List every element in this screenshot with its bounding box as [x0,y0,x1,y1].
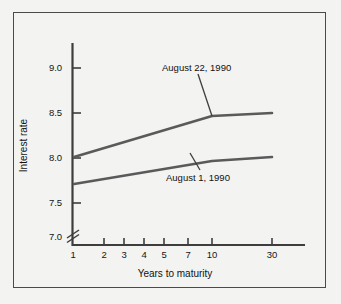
annotation-leader-august-1-1990 [190,153,200,170]
y-tick-label-8-5: 8.5 [32,107,62,118]
x-tick-label-1: 1 [64,249,82,260]
figure-canvas: 9.0 8.5 8.0 7.5 7.0 1 2 3 4 5 7 10 30 Ye… [0,0,341,304]
annotation-label-august-22-1990: August 22, 1990 [162,62,231,73]
series-line-august-22-1990 [74,113,272,157]
x-axis-title: Years to maturity [100,268,250,279]
y-tick-label-8-0: 8.0 [32,152,62,163]
x-tick-label-5: 5 [155,249,173,260]
y-tick-label-9-0: 9.0 [32,62,62,73]
x-tick-label-4: 4 [135,249,153,260]
annotation-leader-august-22-1990 [198,74,212,116]
x-tick-label-30: 30 [260,249,284,260]
y-tick-label-7-5: 7.5 [32,197,62,208]
x-tick-label-3: 3 [115,249,133,260]
y-tick-label-7-0: 7.0 [32,231,62,242]
x-tick-label-7: 7 [179,249,197,260]
annotation-label-august-1-1990: August 1, 1990 [166,172,230,183]
x-tick-label-10: 10 [200,249,224,260]
x-tick-label-2: 2 [95,249,113,260]
y-axis-title: Interest rate [18,101,29,191]
